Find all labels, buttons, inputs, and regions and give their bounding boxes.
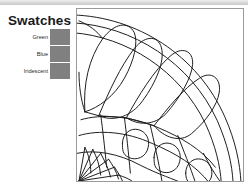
swatch-color-chip[interactable]	[50, 63, 70, 79]
panel-title: Swatches	[8, 13, 71, 28]
toolbar-strip	[0, 0, 248, 5]
swatch-row-blue[interactable]: Blue	[0, 46, 76, 62]
swatch-color-chip[interactable]	[50, 29, 70, 45]
swatch-list: Green Blue Iridescent	[0, 29, 76, 80]
swatch-label: Green	[32, 34, 48, 40]
swatch-row-green[interactable]: Green	[0, 29, 76, 45]
swatch-label: Iridescent	[24, 68, 48, 74]
artwork-canvas[interactable]	[76, 8, 244, 182]
swatch-color-chip[interactable]	[50, 46, 70, 62]
app-window: Swatches Green Blue Iridescent	[0, 0, 248, 186]
stained-glass-fan-pattern-icon	[77, 9, 243, 181]
swatches-panel: Swatches Green Blue Iridescent	[0, 6, 76, 186]
swatch-label: Blue	[37, 51, 48, 57]
swatch-row-iridescent[interactable]: Iridescent	[0, 63, 76, 79]
